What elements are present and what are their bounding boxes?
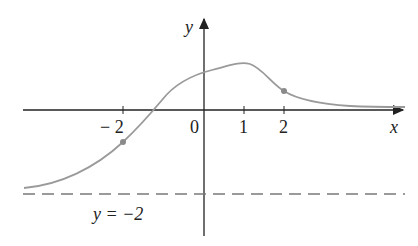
function-curve [24, 63, 405, 188]
graph-canvas [0, 0, 418, 246]
tick-label-1: 1 [239, 118, 248, 136]
point-x-neg2 [120, 139, 126, 145]
point-x-2 [281, 88, 287, 94]
y-axis-label: y [185, 18, 193, 36]
tick-label-2: 2 [279, 118, 288, 136]
x-axis-label: x [390, 118, 398, 136]
tick-label-neg2: − 2 [100, 118, 124, 136]
origin-label: 0 [190, 118, 199, 136]
asymptote-label: y = −2 [93, 205, 143, 223]
